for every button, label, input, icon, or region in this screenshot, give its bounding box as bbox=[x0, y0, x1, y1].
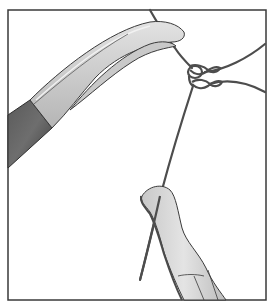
illustration-frame bbox=[0, 0, 275, 305]
knot-tying-illustration bbox=[0, 0, 275, 305]
